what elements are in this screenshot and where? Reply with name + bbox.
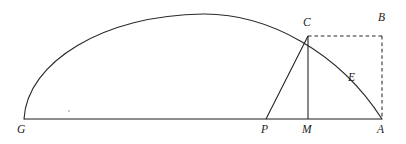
- vertex-label-G: G: [17, 124, 25, 136]
- vertex-label-P: P: [261, 124, 268, 136]
- vertex-label-M: M: [302, 124, 312, 136]
- scan-artifact-speck: [68, 110, 70, 112]
- vertex-label-B: B: [378, 12, 385, 24]
- vertex-label-E: E: [348, 72, 355, 84]
- diagram-canvas: [0, 0, 406, 144]
- chord-segment-PC: [266, 36, 308, 119]
- vertex-label-C: C: [303, 17, 311, 29]
- arc-G-to-A: [24, 14, 382, 119]
- geometric-figure: G P M A C B E: [0, 0, 406, 144]
- vertex-label-A: A: [377, 124, 384, 136]
